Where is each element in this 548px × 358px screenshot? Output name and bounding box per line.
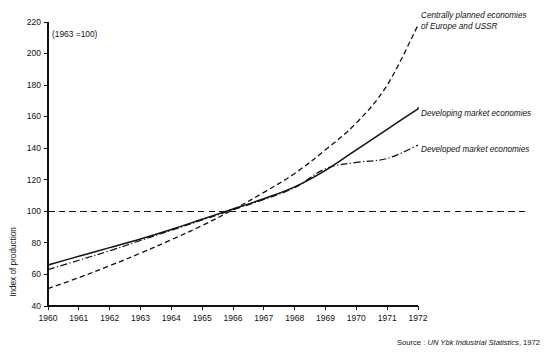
axis-group — [48, 22, 418, 306]
x-tick-label-1967: 1967 — [254, 313, 273, 323]
source-year: , 1972 — [519, 338, 540, 347]
y-tick-label-160: 160 — [27, 111, 41, 121]
x-axis-tick-labels: 1960196119621963196419651966196719681969… — [39, 313, 428, 323]
x-tick-label-1969: 1969 — [316, 313, 335, 323]
x-tick-label-1964: 1964 — [162, 313, 181, 323]
y-tick-label-100: 100 — [27, 206, 41, 216]
x-tick-label-1965: 1965 — [193, 313, 212, 323]
x-tick-label-1962: 1962 — [100, 313, 119, 323]
series-line-developed-market-economies — [48, 145, 418, 270]
x-tick-label-1971: 1971 — [378, 313, 397, 323]
y-tick-label-80: 80 — [32, 238, 42, 248]
source-publication: UN Ybk Industrial Statistics — [427, 338, 519, 347]
series-line-developing-market-economies — [48, 109, 418, 265]
chart-figure: 406080100120140160180200220 196019611962… — [0, 0, 548, 358]
y-tick-label-180: 180 — [27, 80, 41, 90]
y-tick-label-60: 60 — [32, 269, 42, 279]
legend-developed: Developed market economies — [421, 145, 529, 154]
y-axis-ticks — [44, 22, 48, 306]
legend-label-centrally-planned-line2: of Europe and USSR — [421, 22, 498, 31]
y-tick-label-40: 40 — [32, 301, 42, 311]
x-axis-ticks — [48, 306, 418, 310]
x-tick-label-1963: 1963 — [131, 313, 150, 323]
production-index-line-chart: 406080100120140160180200220 196019611962… — [0, 0, 548, 358]
y-tick-label-120: 120 — [27, 175, 41, 185]
source-note: Source : UN Ybk Industrial Statistics, 1… — [397, 338, 540, 347]
source-prefix: Source : — [397, 338, 427, 347]
y-axis-title: Index of production — [9, 227, 18, 297]
x-tick-label-1966: 1966 — [224, 313, 243, 323]
x-tick-label-1972: 1972 — [409, 313, 428, 323]
y-tick-label-220: 220 — [27, 17, 41, 27]
x-tick-label-1961: 1961 — [69, 313, 88, 323]
x-tick-label-1968: 1968 — [285, 313, 304, 323]
legend-developing: Developing market economies — [421, 109, 531, 118]
y-axis-tick-labels: 406080100120140160180200220 — [27, 17, 41, 311]
x-tick-label-1960: 1960 — [39, 313, 58, 323]
x-tick-label-1970: 1970 — [347, 313, 366, 323]
legend-label-centrally-planned-line1: Centrally planned economies — [421, 11, 527, 20]
base-index-annotation: (1963 =100) — [52, 29, 98, 39]
legend-label-developing-market-economies: Developing market economies — [421, 109, 531, 118]
y-tick-label-200: 200 — [27, 48, 41, 58]
legend-label-developed-market-economies: Developed market economies — [421, 145, 529, 154]
legend-centrally-planned: Centrally planned economies of Europe an… — [421, 11, 527, 31]
y-tick-label-140: 140 — [27, 143, 41, 153]
